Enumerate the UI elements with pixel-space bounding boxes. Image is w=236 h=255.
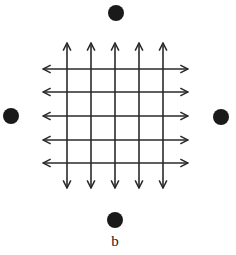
dot-left — [3, 108, 19, 124]
figure-label: b — [111, 233, 119, 250]
dot-right — [213, 109, 229, 125]
arrow-grid — [43, 43, 188, 188]
dot-top — [108, 5, 124, 21]
dot-bottom — [107, 212, 123, 228]
arrow-grid-diagram — [0, 0, 236, 255]
